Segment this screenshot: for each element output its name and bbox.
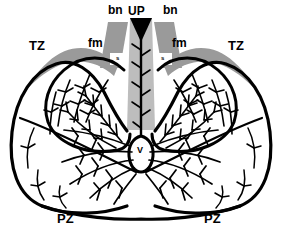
transition-zone-acini-right (160, 74, 238, 148)
label-s-right: s (161, 55, 164, 61)
prostate-anatomy-diagram: bn UP bn TZ TZ fm fm s s V PZ PZ (0, 0, 282, 233)
diagram-canvas (0, 0, 282, 233)
label-bn-left: bn (108, 4, 123, 16)
pz-septum-left (20, 118, 136, 172)
label-up: UP (128, 5, 145, 17)
label-fm-left: fm (88, 37, 103, 49)
label-pz-right: PZ (204, 212, 221, 225)
label-tz-left: TZ (29, 39, 45, 52)
label-verumontanum: V (137, 146, 143, 155)
label-pz-left: PZ (57, 212, 74, 225)
label-s-left: s (116, 55, 119, 61)
label-tz-right: TZ (228, 39, 244, 52)
label-fm-right: fm (172, 37, 187, 49)
transition-zone-acini-left (44, 74, 122, 148)
pz-septum-right (146, 118, 262, 172)
label-bn-right: bn (163, 4, 178, 16)
